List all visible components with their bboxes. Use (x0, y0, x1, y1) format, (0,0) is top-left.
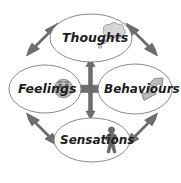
node-behaviours[interactable]: Behaviours (98, 64, 180, 114)
node-thoughts[interactable]: Thoughts (50, 14, 132, 62)
node-thoughts-label: Thoughts (62, 30, 128, 45)
diagram-svg: Thoughts Feelings Behaviours (0, 0, 181, 183)
node-sensations-label: Sensations (60, 133, 134, 147)
node-feelings-label: Feelings (18, 81, 76, 96)
cbt-diagram-canvas: Thoughts Feelings Behaviours (0, 0, 181, 183)
node-behaviours-label: Behaviours (104, 82, 180, 96)
arrow-feelings-sensations (27, 113, 59, 146)
node-feelings[interactable]: Feelings (9, 65, 81, 113)
node-sensations[interactable]: Sensations (54, 118, 134, 162)
